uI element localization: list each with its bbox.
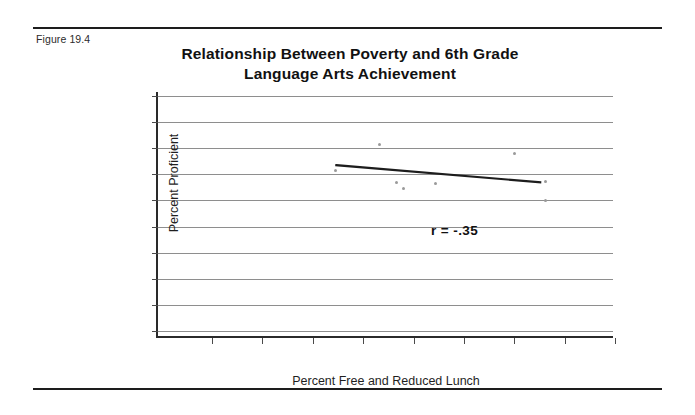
correlation-annotation: r = -.35 <box>431 223 478 238</box>
x-tick-mark <box>464 338 465 344</box>
top-rule <box>33 27 662 29</box>
bottom-rule <box>33 388 662 390</box>
x-tick-mark <box>615 338 616 344</box>
regression-trendline <box>156 92 613 338</box>
data-point <box>378 143 381 146</box>
x-tick-mark <box>313 338 314 344</box>
chart-title-line-1: Relationship Between Poverty and 6th Gra… <box>181 45 518 62</box>
scatter-plot-area: r = -.35 Percent Proficient Percent Free… <box>156 92 613 338</box>
figure-page: Figure 19.4 Relationship Between Poverty… <box>0 0 695 415</box>
x-tick-mark <box>514 338 515 344</box>
chart-title-line-2: Language Arts Achievement <box>120 64 580 84</box>
x-tick-mark <box>565 338 566 344</box>
y-axis-title: Percent Proficient <box>167 113 181 253</box>
chart-title: Relationship Between Poverty and 6th Gra… <box>120 44 580 84</box>
data-point <box>395 181 398 184</box>
figure-caption-label: Figure 19.4 <box>36 33 90 45</box>
x-axis-title: Percent Free and Reduced Lunch <box>126 374 646 388</box>
data-point <box>334 169 337 172</box>
data-point <box>513 152 516 155</box>
x-tick-mark <box>414 338 415 344</box>
x-tick-mark <box>212 338 213 344</box>
x-tick-mark <box>262 338 263 344</box>
data-point <box>544 199 547 202</box>
x-tick-mark <box>363 338 364 344</box>
data-point <box>544 180 547 183</box>
